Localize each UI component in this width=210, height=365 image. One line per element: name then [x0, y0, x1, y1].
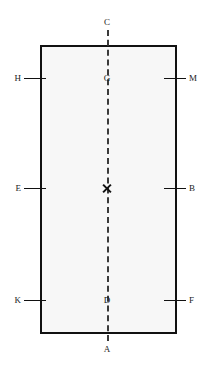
tick-K	[24, 300, 46, 301]
point-label-h: H	[15, 74, 22, 83]
center-x-marker	[102, 183, 113, 194]
point-label-c: C	[104, 18, 110, 27]
point-label-f: F	[189, 296, 194, 305]
point-label-b: B	[189, 184, 195, 193]
point-label-m: M	[189, 74, 197, 83]
tick-M	[164, 78, 186, 79]
point-label-e: E	[16, 184, 22, 193]
tick-E	[24, 188, 46, 189]
point-label-a: A	[104, 345, 111, 354]
technical-diagram-figure: CHGMEBKDFA	[0, 0, 210, 365]
tick-H	[24, 78, 46, 79]
point-label-k: K	[15, 296, 22, 305]
point-label-g: G	[104, 74, 111, 83]
tick-B	[164, 188, 186, 189]
point-label-d: D	[104, 296, 111, 305]
tick-F	[164, 300, 186, 301]
